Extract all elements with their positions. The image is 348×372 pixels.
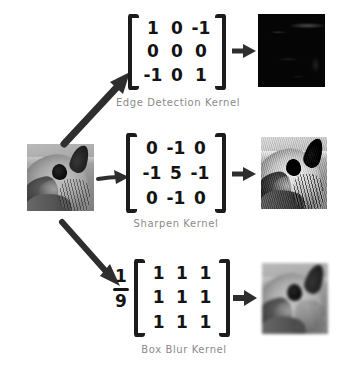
kernel-cell: 0 <box>146 140 158 157</box>
kernel-cell: 1 <box>176 314 188 331</box>
kernel-cell: 1 <box>153 265 165 282</box>
arrow-source-to-edge <box>60 70 135 148</box>
kernel-convolution-diagram: 1 0 -1 0 0 0 -1 0 1 Edge Detection Kerne… <box>0 0 348 372</box>
kernel-cell: 1 <box>153 314 165 331</box>
scalar-one-ninth: 1 9 <box>110 268 132 311</box>
kernel-cell: -1 <box>192 20 211 37</box>
fraction-numerator: 1 <box>110 268 132 286</box>
photo-fur-detail <box>261 137 327 209</box>
kernel-cell: -1 <box>167 140 186 157</box>
kernel-cell: 0 <box>147 43 159 60</box>
output-image-sharpen <box>261 137 327 209</box>
kernel-cell: 1 <box>176 265 188 282</box>
caption-box-blur: Box Blur Kernel <box>128 344 240 355</box>
kernel-cell: -1 <box>167 190 186 207</box>
arrow-edge-kernel-to-output <box>231 41 257 61</box>
kernel-cell: 1 <box>199 289 211 306</box>
source-image <box>27 144 94 211</box>
kernel-cell: 1 <box>195 67 207 84</box>
output-image-edge-detection <box>258 14 325 87</box>
fraction-denominator: 9 <box>110 293 132 311</box>
kernel-cell: 1 <box>199 265 211 282</box>
bracket-left-icon <box>128 14 139 90</box>
edge-map <box>258 14 325 87</box>
arrow-source-to-sharpen <box>96 166 130 190</box>
kernel-cell: 0 <box>195 43 207 60</box>
bracket-left-icon <box>134 259 145 337</box>
output-image-box-blur <box>262 263 328 334</box>
arrow-blur-kernel-to-output <box>232 288 258 308</box>
kernel-cell: 1 <box>153 289 165 306</box>
kernel-cell: -1 <box>143 165 162 182</box>
kernel-cell: 0 <box>146 190 158 207</box>
bracket-right-icon <box>215 133 226 213</box>
kernel-matrix-box-blur: 1 1 1 1 1 1 1 1 1 <box>134 259 230 337</box>
kernel-cell: 0 <box>171 67 183 84</box>
arrow-sharpen-kernel-to-output <box>231 164 257 184</box>
kernel-cell: 5 <box>170 165 182 182</box>
bracket-right-icon <box>215 14 226 90</box>
caption-sharpen: Sharpen Kernel <box>121 218 231 229</box>
caption-edge-detection: Edge Detection Kernel <box>113 97 243 108</box>
photo-neck-fur <box>59 179 90 211</box>
kernel-cell: 1 <box>147 20 159 37</box>
kernel-cell: 0 <box>194 140 206 157</box>
kernel-cell: 1 <box>199 314 211 331</box>
kernel-cell: 1 <box>176 289 188 306</box>
bracket-right-icon <box>219 259 230 337</box>
kernel-matrix-sharpen: 0 -1 0 -1 5 -1 0 -1 0 <box>126 133 226 213</box>
kernel-cell: -1 <box>144 67 163 84</box>
kernel-cell: 0 <box>171 43 183 60</box>
kernel-cell: 0 <box>171 20 183 37</box>
kernel-matrix-edge-detection: 1 0 -1 0 0 0 -1 0 1 <box>128 14 226 90</box>
kernel-cell: 0 <box>194 190 206 207</box>
photo-neck-fur <box>294 300 324 334</box>
kernel-cell: -1 <box>191 165 210 182</box>
bracket-left-icon <box>126 133 137 213</box>
